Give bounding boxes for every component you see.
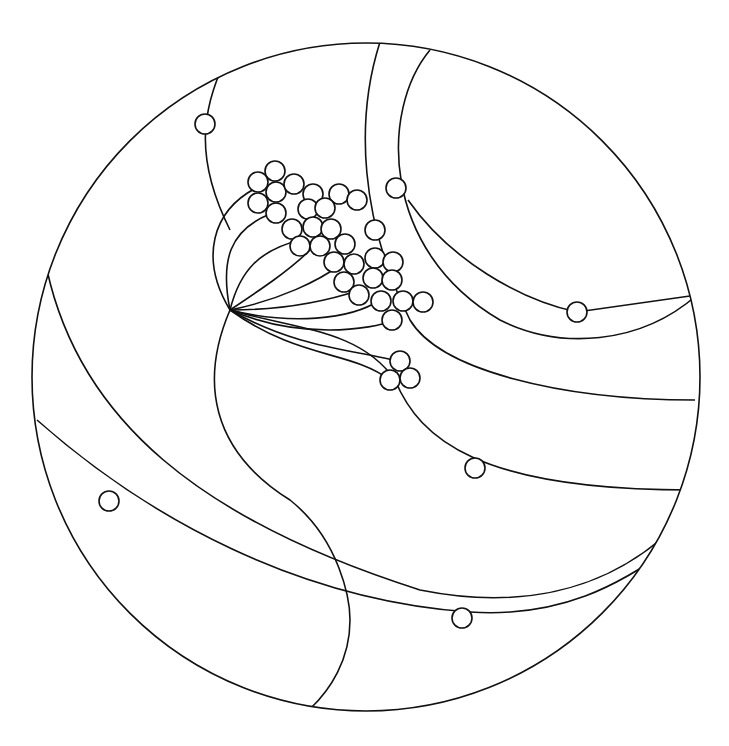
tree-node <box>365 220 385 240</box>
edge-curve <box>230 310 395 330</box>
tree-node <box>349 285 369 305</box>
tree-node <box>310 236 330 256</box>
edge-curve <box>230 240 300 310</box>
tree-node <box>303 217 323 237</box>
tree-node <box>393 291 413 311</box>
tree-node <box>315 198 335 218</box>
tree-node <box>386 178 406 198</box>
tree-node <box>335 234 355 254</box>
tree-node <box>266 182 286 202</box>
edge-curve <box>230 310 690 490</box>
tree-node <box>400 368 420 388</box>
tree-node <box>195 114 215 134</box>
tree-node <box>371 291 391 311</box>
tree-node <box>266 203 286 223</box>
tree-node <box>382 270 402 290</box>
edge-curve <box>37 420 672 613</box>
hyperbolic-tree-diagram <box>0 0 729 746</box>
tree-node <box>344 254 364 274</box>
tree-node <box>465 458 485 478</box>
tree-node <box>413 292 433 312</box>
edge-curve <box>230 310 390 380</box>
tree-nodes <box>99 114 587 628</box>
edge-curve <box>365 42 695 400</box>
tree-node <box>380 370 400 390</box>
edge-curve <box>205 55 230 230</box>
edge-curve <box>408 200 697 312</box>
tree-node <box>99 491 119 511</box>
tree-node <box>324 252 344 272</box>
tree-node <box>382 310 402 330</box>
tree-node <box>567 302 587 322</box>
tree-node <box>383 252 403 272</box>
edge-curve <box>398 50 697 339</box>
edge-curve <box>226 214 270 310</box>
tree-node <box>290 236 310 256</box>
tree-node <box>347 190 367 210</box>
tree-node <box>365 248 385 268</box>
tree-node <box>248 193 268 213</box>
edge-curves <box>37 42 697 709</box>
tree-node <box>363 268 383 288</box>
tree-node <box>248 172 268 192</box>
edge-curve <box>230 290 360 310</box>
edge-curve <box>47 270 660 598</box>
tree-node <box>452 608 472 628</box>
tree-node <box>284 174 304 194</box>
